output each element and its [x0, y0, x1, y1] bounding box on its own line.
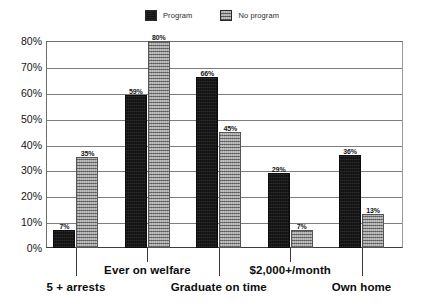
bar-no-program: 7% [291, 230, 313, 248]
category-tick [147, 248, 148, 262]
bar-value-label: 7% [297, 223, 307, 230]
bar-value-label: 35% [81, 150, 95, 157]
y-axis-tick-label: 70% [2, 61, 42, 73]
category-label: $2,000+/month [249, 264, 331, 276]
bar-program: 29% [268, 173, 290, 248]
y-axis-tick-label: 20% [2, 190, 42, 202]
category-tick [362, 248, 363, 276]
legend-item-program: Program [145, 10, 192, 21]
category-tick [290, 248, 291, 262]
y-axis-tick-label: 60% [2, 87, 42, 99]
bar-program: 36% [339, 155, 361, 248]
y-axis-tick-label: 50% [2, 113, 42, 125]
bar-value-label: 80% [152, 34, 166, 41]
bar-program: 59% [125, 95, 147, 248]
bar-no-program: 13% [362, 214, 384, 248]
bar-value-label: 66% [200, 70, 214, 77]
category-tick [76, 248, 77, 276]
bar-chart-figure: Program No program 0%10%20%30%40%50%60%7… [0, 0, 424, 303]
bar-no-program: 35% [76, 157, 98, 248]
bar-value-label: 29% [272, 166, 286, 173]
bar-value-label: 59% [129, 88, 143, 95]
category-label: Own home [332, 281, 392, 293]
legend-label-no-program: No program [238, 11, 279, 20]
category-label: Graduate on time [171, 281, 267, 293]
bar-value-label: 7% [60, 223, 70, 230]
legend-item-no-program: No program [220, 10, 279, 21]
bar-value-label: 45% [223, 125, 237, 132]
chart-legend: Program No program [0, 10, 424, 21]
bar-value-label: 36% [343, 148, 357, 155]
bar-no-program: 45% [219, 132, 241, 248]
y-axis-tick-label: 0% [2, 242, 42, 254]
legend-swatch-icon-no-program [220, 10, 232, 21]
category-label: Ever on welfare [104, 264, 191, 276]
y-axis-tick-label: 10% [2, 216, 42, 228]
legend-swatch-icon-program [145, 10, 157, 21]
category-label: 5 + arrests [47, 281, 106, 293]
bar-program: 7% [53, 230, 75, 248]
bar-program: 66% [196, 77, 218, 248]
y-axis-tick-label: 80% [2, 35, 42, 47]
y-axis-tick-label: 30% [2, 164, 42, 176]
category-tick [219, 248, 220, 276]
legend-label-program: Program [163, 11, 192, 20]
bars-layer: 7%35%59%80%66%45%29%7%36%13% [46, 41, 403, 248]
y-axis-tick-label: 40% [2, 139, 42, 151]
bar-value-label: 13% [366, 207, 380, 214]
bar-no-program: 80% [148, 41, 170, 248]
